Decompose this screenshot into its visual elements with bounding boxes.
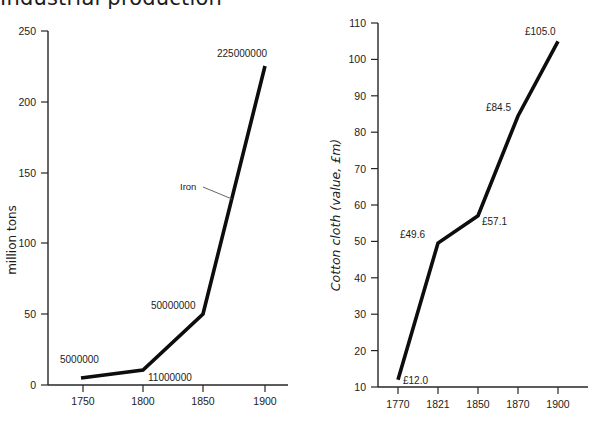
iron-ytick-label-150: 150 bbox=[18, 167, 36, 179]
cotton-point-label-1900: £105.0 bbox=[525, 26, 556, 37]
iron-y-axis-title: million tons bbox=[5, 205, 19, 275]
cotton-ytick-label-70: 70 bbox=[354, 163, 366, 175]
cotton-point-label-1850: £57.1 bbox=[482, 216, 507, 227]
iron-point-label-1900: 225000000 bbox=[217, 48, 267, 59]
iron-point-label-1850: 50000000 bbox=[151, 300, 196, 311]
iron-ytick-label-250: 250 bbox=[18, 25, 36, 37]
cotton-ytick-label-50: 50 bbox=[354, 235, 366, 247]
cotton-xtick-label-1870: 1870 bbox=[506, 398, 530, 410]
cotton-xtick-label-1770: 1770 bbox=[386, 398, 410, 410]
iron-xtick-label-1800: 1800 bbox=[131, 395, 155, 407]
iron-data-line bbox=[81, 66, 265, 378]
iron-ytick-label-0: 0 bbox=[30, 379, 36, 391]
iron-ytick-label-100: 100 bbox=[18, 237, 36, 249]
cotton-point-label-1870: £84.5 bbox=[486, 102, 511, 113]
cotton-xtick-label-1850: 1850 bbox=[466, 398, 490, 410]
iron-chart-svg: 0 50 100 150 200 250 million tons 1750 1… bbox=[0, 0, 300, 443]
cotton-ytick-label-110: 110 bbox=[349, 17, 366, 29]
cotton-ytick-label-30: 30 bbox=[354, 308, 366, 320]
iron-xtick-label-1750: 1750 bbox=[71, 395, 95, 407]
cotton-ytick-label-80: 80 bbox=[354, 126, 366, 138]
cotton-ytick-label-40: 40 bbox=[354, 272, 366, 284]
cotton-y-axis-title: Cotton cloth (value, £m) bbox=[328, 139, 343, 291]
cotton-ytick-label-60: 60 bbox=[354, 199, 366, 211]
cotton-xtick-label-1821: 1821 bbox=[426, 398, 450, 410]
cotton-ytick-label-10: 10 bbox=[354, 381, 366, 393]
cotton-xtick-label-1900: 1900 bbox=[546, 398, 570, 410]
chart-iron-production: 0 50 100 150 200 250 million tons 1750 1… bbox=[0, 0, 300, 443]
cotton-point-label-1770: £12.0 bbox=[403, 375, 428, 386]
iron-ytick-label-200: 200 bbox=[18, 96, 36, 108]
cotton-point-label-1821: £49.6 bbox=[400, 229, 425, 240]
cotton-data-line bbox=[398, 41, 558, 379]
iron-xtick-label-1850: 1850 bbox=[191, 395, 215, 407]
iron-point-label-1750: 5000000 bbox=[60, 354, 99, 365]
cotton-chart-svg: 10 20 30 40 50 60 70 80 90 100 110 Cotto… bbox=[300, 0, 597, 443]
iron-annotation-leader-line bbox=[203, 187, 232, 199]
iron-xtick-label-1900: 1900 bbox=[253, 395, 277, 407]
cotton-ytick-label-100: 100 bbox=[348, 53, 366, 65]
chart-cotton-cloth-value: 10 20 30 40 50 60 70 80 90 100 110 Cotto… bbox=[300, 0, 597, 443]
cotton-ytick-label-90: 90 bbox=[354, 90, 366, 102]
iron-ytick-label-50: 50 bbox=[24, 308, 36, 320]
cotton-ytick-label-20: 20 bbox=[354, 345, 366, 357]
iron-point-label-1800: 11000000 bbox=[148, 372, 192, 383]
iron-series-annotation-label: Iron bbox=[180, 181, 196, 192]
